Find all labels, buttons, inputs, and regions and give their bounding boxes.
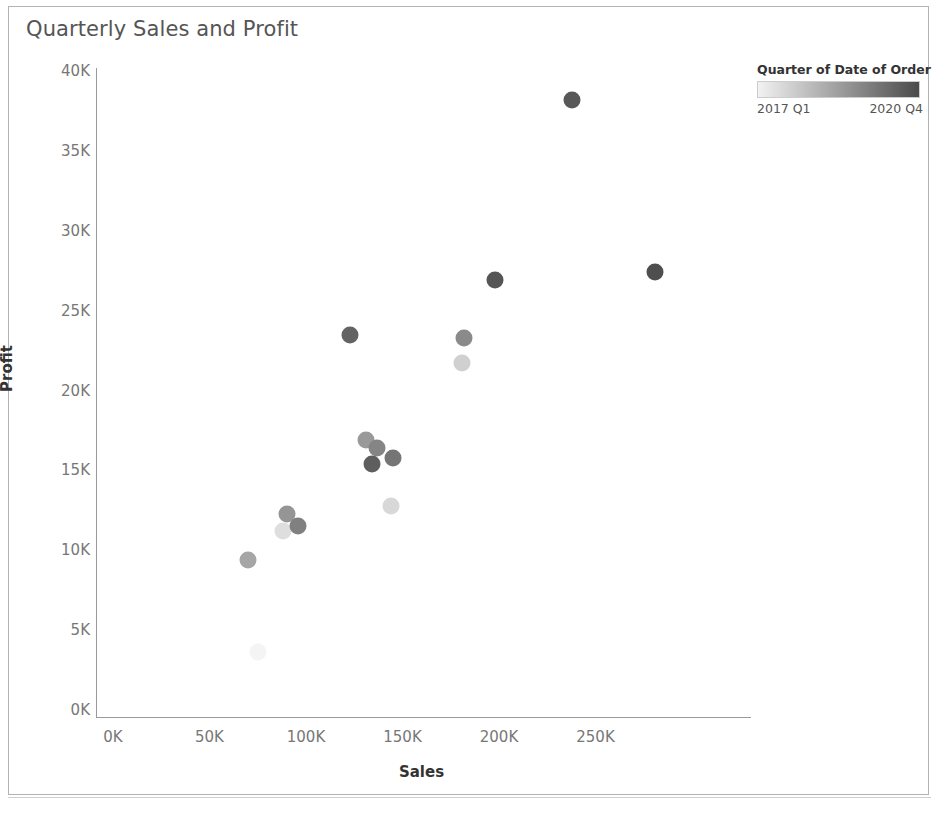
legend-gradient-bar[interactable] [757,81,920,98]
legend-labels: 2017 Q1 2020 Q4 [757,101,923,116]
scatter-point[interactable] [382,497,399,514]
y-tick-label: 10K [38,541,90,559]
y-axis-label: Profit [0,345,16,392]
x-axis-label: Sales [0,763,843,781]
x-tick-label: 100K [271,728,341,746]
y-tick-label: 35K [38,142,90,160]
y-tick-label: 30K [38,222,90,240]
frame-shadow [8,797,931,798]
x-tick-label: 50K [175,728,245,746]
y-tick-label: 25K [38,302,90,320]
legend-min-label: 2017 Q1 [757,101,811,116]
color-legend[interactable]: Quarter of Date of Order 2017 Q1 2020 Q4 [757,62,923,116]
plot-area [97,68,750,717]
x-tick-label: 150K [368,728,438,746]
legend-title: Quarter of Date of Order [757,62,923,77]
y-tick-label: 40K [38,62,90,80]
x-axis-ticks: 0K50K100K150K200K250K [0,728,939,752]
scatter-point[interactable] [564,91,581,108]
y-axis-ticks: 40K35K30K25K20K15K10K5K0K [30,0,90,816]
x-tick-label: 0K [78,728,148,746]
y-tick-label: 20K [38,382,90,400]
legend-max-label: 2020 Q4 [869,101,923,116]
scatter-point[interactable] [647,264,664,281]
scatter-point[interactable] [456,329,473,346]
scatter-point[interactable] [369,440,386,457]
y-tick-label: 5K [38,621,90,639]
scatter-point[interactable] [249,644,266,661]
y-tick-label: 15K [38,461,90,479]
x-tick-label: 250K [561,728,631,746]
scatter-point[interactable] [454,355,471,372]
chart-container: Quarterly Sales and Profit 40K35K30K25K2… [0,0,939,816]
scatter-point[interactable] [384,449,401,466]
x-axis-line [96,717,751,718]
scatter-point[interactable] [363,455,380,472]
scatter-point[interactable] [487,272,504,289]
scatter-point[interactable] [274,523,291,540]
scatter-point[interactable] [342,326,359,343]
x-tick-label: 200K [464,728,534,746]
scatter-point[interactable] [290,518,307,535]
scatter-point[interactable] [240,551,257,568]
y-tick-label: 0K [38,701,90,719]
